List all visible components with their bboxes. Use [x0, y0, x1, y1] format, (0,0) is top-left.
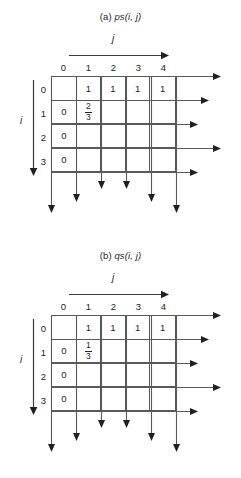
- panel-a-col-flow-arrow-4: [147, 76, 156, 202]
- panel-a-j-axis-arrow-icon: [69, 51, 169, 60]
- panel-a-j-axis-label: j: [112, 33, 114, 44]
- panel-a-caption-function: ps: [114, 11, 124, 22]
- panel-b-j-axis-label: j: [112, 272, 114, 283]
- figure-panel-a: (a) ps(i, j) j i 0 1 2 3 4 0 1 2 3 1 1 1…: [0, 0, 241, 239]
- panel-b-i-axis-label: i: [20, 354, 22, 365]
- panel-a-col-flow-arrow-0: [47, 76, 56, 213]
- panel-b-col-flow-arrow-5: [172, 315, 181, 452]
- panel-b-caption-args: (i, j): [125, 250, 141, 261]
- panel-a-col-flow-arrow-1: [72, 76, 81, 202]
- panel-b-col-flow-arrow-2: [97, 315, 106, 428]
- panel-b-col-flow-arrow-1: [72, 315, 81, 441]
- panel-a-col-flow-arrow-2: [97, 76, 106, 189]
- panel-b-caption-function: qs: [114, 250, 124, 261]
- panel-b-j-axis-arrow-icon: [69, 290, 169, 299]
- panel-b-col-flow-arrow-3: [122, 315, 131, 428]
- panel-a-caption-args: (i, j): [125, 11, 141, 22]
- panel-b-col-flow-arrow-0: [47, 315, 56, 452]
- panel-a-col-flow-arrow-3: [122, 76, 131, 189]
- panel-a-caption-prefix: (a): [100, 11, 115, 22]
- panel-a-caption: (a) ps(i, j): [0, 11, 241, 22]
- panel-b-caption: (b) qs(i, j): [0, 250, 241, 261]
- panel-a-col-flow-arrow-5: [172, 76, 181, 213]
- panel-a-i-axis-label: i: [20, 115, 22, 126]
- panel-b-col-flow-arrow-4: [147, 315, 156, 441]
- figure-panel-b: (b) qs(i, j) j i 0 1 2 3 4 0 1 2 3 1 1 1…: [0, 239, 241, 478]
- panel-b-caption-prefix: (b): [100, 250, 115, 261]
